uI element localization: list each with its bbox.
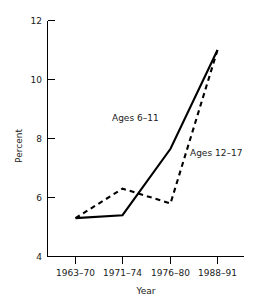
series-line-ages-6-11 — [76, 50, 218, 218]
series-annotation-ages-12-17: Ages 12–17 — [190, 148, 242, 158]
y-tick-label-4: 4 — [36, 252, 42, 262]
x-tick-label-3: 1976–80 — [151, 268, 190, 278]
x-tick-label-2: 1971–74 — [103, 268, 142, 278]
x-tick-label-1: 1963–70 — [56, 268, 95, 278]
y-tick-label-6: 6 — [36, 193, 42, 203]
y-tick-label-8: 8 — [36, 134, 42, 144]
x-tick-label-4: 1988–91 — [198, 268, 237, 278]
y-tick-label-10: 10 — [31, 75, 43, 85]
chart-canvas: 12 10 8 6 4 Percent 1963–70 1971–74 1976… — [0, 0, 261, 305]
y-axis-title: Percent — [14, 129, 24, 163]
series-annotation-ages-6-11: Ages 6–11 — [112, 113, 159, 123]
y-tick-label-12: 12 — [31, 16, 42, 26]
series-line-ages-12-17 — [76, 50, 218, 218]
line-chart: 12 10 8 6 4 Percent 1963–70 1971–74 1976… — [0, 0, 261, 305]
x-axis-title: Year — [135, 286, 155, 296]
